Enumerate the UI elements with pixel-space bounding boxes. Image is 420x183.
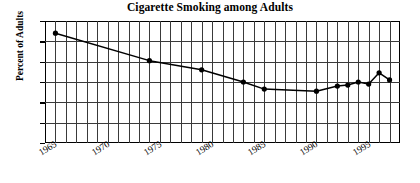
data-point (387, 77, 392, 82)
data-point (356, 79, 361, 84)
data-point (366, 81, 371, 86)
series-markers (53, 31, 392, 94)
data-point (199, 67, 204, 72)
data-series (45, 21, 400, 143)
data-point (241, 79, 246, 84)
data-point (345, 82, 350, 87)
y-axis-title: Percent of Adults (15, 0, 25, 106)
data-point (335, 83, 340, 88)
data-point (262, 87, 267, 92)
chart-title: Cigarette Smoking among Adults (0, 1, 420, 13)
data-point (147, 58, 152, 63)
data-point (53, 31, 58, 36)
data-point (314, 89, 319, 94)
plot-wrap: 0102030405060 19651970197519801985199019… (45, 21, 400, 143)
data-point (377, 70, 382, 75)
chart-container: Cigarette Smoking among Adults Percent o… (0, 0, 420, 183)
series-line (55, 33, 389, 91)
